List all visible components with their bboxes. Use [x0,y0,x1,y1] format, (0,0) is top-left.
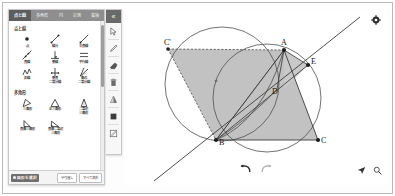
undo-redo-group [239,163,272,173]
color-triangle-icon [109,95,118,104]
edit-note-icon [109,129,118,138]
zoom-tool-button[interactable] [372,165,382,175]
group-title-polygons: 多角形 [14,89,98,95]
tool-grid-points-lines: 点 線分 半直線 [13,33,98,86]
line-icon [13,50,41,60]
redo-arrow-icon [260,159,272,177]
settings-gear-button[interactable] [370,14,381,25]
pan-tool-button[interactable] [356,165,366,175]
tool-right-triangle[interactable]: 直角三角形 [13,117,41,137]
point-E[interactable] [306,63,310,67]
tool-label: 直角三角形 [20,128,35,132]
undo-button[interactable]: やり直し [57,173,77,183]
tool-label: 線分 [52,45,58,49]
tool-right-isosceles-triangle[interactable]: 直角二等辺 三角形 [41,117,69,137]
tool-point[interactable]: 点 [13,33,41,49]
tool-label: 平行線 [79,61,88,65]
status-badge: 図形を選択 [11,174,39,182]
tool-label: 三角形 [23,108,32,112]
tool-equilateral-triangle[interactable]: 正三角形 [41,97,69,117]
redo-button[interactable] [260,163,272,173]
tool-label: 垂線 [52,61,58,65]
tool-grid-polygons: 三角形 正三角形 二等辺 三角形 [13,97,98,137]
tool-label: 正三角形 [49,108,61,112]
tool-triangle[interactable]: 三角形 [13,97,41,117]
pen-tool-button[interactable] [106,40,121,56]
scrollbar-thumb[interactable] [101,25,104,87]
color-tool-button[interactable] [106,91,121,107]
eraser-tool-button[interactable] [106,57,121,73]
tool-label: 垂直 二等分線 [49,77,61,85]
line-through-B-E [154,17,360,181]
tool-parallel[interactable]: 平行線 [70,49,98,65]
segment-icon [41,34,69,44]
point-C[interactable] [316,138,320,142]
trash-icon [109,78,118,87]
point-label-E: E [311,57,316,66]
point-label-B: B [219,138,224,147]
vertical-toolbar: « [106,9,122,155]
pan-cursor-icon [357,161,366,179]
status-dot-icon [13,176,16,179]
cursor-icon [109,27,118,36]
fill-tool-button[interactable] [106,108,121,124]
tool-scroll-region: 点と線 点 線分 [9,21,100,170]
app-window: 点と線 多角形 円 計測 変換 点と線 点 [0,0,395,196]
eraser-icon [109,61,118,70]
point-A[interactable] [282,48,286,52]
fill-square-icon [109,112,118,121]
undo-button[interactable] [239,163,251,173]
canvas-bottom-tools [356,165,382,175]
tool-tab-bar: 点と線 多角形 円 計測 変換 [9,10,104,21]
tool-label: 二等辺 三角形 [79,108,88,116]
point-label-C-prime: C' [164,38,171,47]
collapse-panel-button[interactable]: « [106,10,121,23]
point-B[interactable] [214,138,218,142]
tool-label: 直線 [24,61,30,65]
group-title-points-lines: 点と線 [14,25,98,31]
tool-panel-footer: 図形を選択 やり直し すべて消去 [9,170,104,184]
point-C-prime[interactable] [166,47,170,51]
geometry-canvas[interactable]: A B C D E C' [124,9,387,185]
point-label-A: A [281,38,287,47]
tool-panel: 点と線 多角形 円 計測 変換 点と線 点 [8,9,105,185]
tab-polygons[interactable]: 多角形 [31,10,53,21]
tool-polyline[interactable]: 折線 [13,66,41,86]
geometry-drawing[interactable]: A B C D E C' [124,9,387,185]
perpendicular-icon [41,50,69,60]
point-label-C: C [321,136,326,145]
parallel-icon [70,50,98,60]
clear-all-button[interactable]: すべて消去 [79,173,102,183]
tab-transform[interactable]: 変換 [86,10,104,21]
tab-measure[interactable]: 計測 [68,10,86,21]
tool-label: 折線 [24,77,30,81]
ray-icon [70,34,98,44]
tool-panel-scrollbar[interactable] [100,21,104,170]
tool-label: 半直線 [79,45,88,49]
delete-tool-button[interactable] [106,74,121,90]
tool-line[interactable]: 直線 [13,49,41,65]
magnifier-icon [373,161,382,179]
point-icon [13,34,41,44]
tool-segment[interactable]: 線分 [41,33,69,49]
tool-ray[interactable]: 半直線 [70,33,98,49]
tab-points-lines[interactable]: 点と線 [9,10,31,21]
pen-icon [109,44,118,53]
point-label-D: D [272,87,278,96]
tool-angle-bisector[interactable]: 角の 二等分線 [70,66,98,86]
tab-circles[interactable]: 円 [54,10,68,21]
tool-perpendicular[interactable]: 垂線 [41,49,69,65]
select-tool-button[interactable] [106,23,121,39]
tool-panel-body: 点と線 点 線分 [9,21,104,170]
undo-arrow-icon [239,159,251,177]
tool-perp-bisector[interactable]: 垂直 二等分線 [41,66,69,86]
note-tool-button[interactable] [106,125,121,141]
tool-label: 点 [26,45,29,49]
tool-label: 直角二等辺 三角形 [48,128,63,136]
gear-icon [371,11,381,29]
tool-label: 角の 二等分線 [78,77,90,85]
point-center-mark[interactable] [215,80,218,83]
tool-isosceles-triangle[interactable]: 二等辺 三角形 [70,97,98,117]
status-label: 図形を選択 [17,175,37,180]
